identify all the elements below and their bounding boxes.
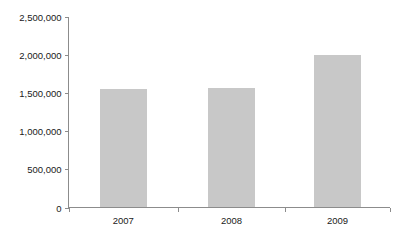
- y-axis-tick-label: 1,500,000: [19, 88, 61, 99]
- y-axis-tick-label: 2,000,000: [19, 50, 61, 61]
- x-axis-tick-label: 2008: [221, 215, 242, 226]
- bar-chart-figure: 2,500,0002,000,0001,500,0001,000,000500,…: [0, 0, 406, 238]
- chart-canvas: 2,500,0002,000,0001,500,0001,000,000500,…: [0, 0, 406, 238]
- bar: [208, 88, 255, 208]
- y-axis-tick-label: 0: [56, 203, 61, 214]
- y-axis-tick-label: 2,500,000: [19, 12, 61, 23]
- x-axis-tick-label: 2007: [113, 215, 134, 226]
- bar: [100, 89, 147, 208]
- y-axis-tick-label: 500,000: [27, 164, 61, 175]
- x-axis-tick-label: 2009: [327, 215, 348, 226]
- y-axis-tick-label: 1,000,000: [19, 126, 61, 137]
- bar: [314, 55, 361, 208]
